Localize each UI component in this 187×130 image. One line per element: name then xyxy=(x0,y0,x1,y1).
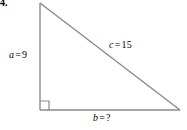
label-side-c: c=15 xyxy=(109,40,132,50)
label-side-c-value: 15 xyxy=(121,39,131,50)
label-side-b-value: ? xyxy=(106,112,111,123)
right-triangle-drawing xyxy=(0,0,187,130)
triangle-hypotenuse-c-line xyxy=(40,3,180,110)
label-side-a: a=9 xyxy=(9,50,27,60)
geometry-figure: 4. a=9 c=15 b=? xyxy=(0,0,187,130)
label-side-b: b=? xyxy=(93,113,111,123)
label-side-a-value: 9 xyxy=(22,49,27,60)
label-side-a-operator: = xyxy=(14,49,22,60)
label-side-b-operator: = xyxy=(98,112,106,123)
right-angle-marker-icon xyxy=(40,101,49,110)
label-side-c-variable: c xyxy=(109,39,114,50)
